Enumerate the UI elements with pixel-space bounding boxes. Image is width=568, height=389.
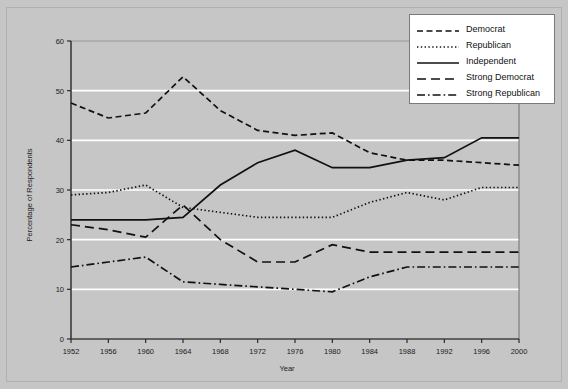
x-tick-label: 1952 [63,347,80,356]
legend-line-swatch [416,71,460,83]
x-tick-label: 2000 [511,347,528,356]
x-tick-label: 1984 [361,347,378,356]
legend-item[interactable]: Democrat [416,21,548,37]
x-tick-label: 1968 [212,347,229,356]
legend-item-label: Independent [466,55,516,67]
x-tick-label: 1964 [175,347,192,356]
x-tick-label: 1960 [137,347,154,356]
x-tick-label: 1992 [436,347,453,356]
x-tick-labels: 1952195619601964196819721976198019841988… [63,347,528,356]
x-tick-label: 1976 [287,347,304,356]
chart-figure: 0102030405060 19521956196019641968197219… [0,0,568,389]
y-tick-label: 50 [56,87,64,96]
y-tick-labels: 0102030405060 [56,37,64,344]
legend-line-swatch [416,55,460,67]
x-tick-label: 1972 [249,347,266,356]
x-tick-label: 1988 [399,347,416,356]
legend-item[interactable]: Strong Republican [416,85,548,101]
legend-line-swatch [416,39,460,51]
legend-item[interactable]: Independent [416,53,548,69]
legend-item[interactable]: Strong Democrat [416,69,548,85]
y-tick-label: 0 [60,335,64,344]
x-axis-title: Year [279,364,295,373]
legend-item-label: Republican [466,39,511,51]
legend-line-swatch [416,87,460,99]
legend-item[interactable]: Republican [416,37,548,53]
x-tick-label: 1996 [473,347,490,356]
x-tick-label: 1956 [100,347,117,356]
y-tick-label: 60 [56,37,64,46]
y-tick-label: 40 [56,136,64,145]
legend-item-label: Democrat [466,23,505,35]
legend-item-label: Strong Republican [466,87,540,99]
legend-line-swatch [416,23,460,35]
y-tick-label: 30 [56,186,64,195]
chart-legend: DemocratRepublicanIndependentStrong Demo… [409,14,555,104]
legend-item-label: Strong Democrat [466,71,534,83]
y-tick-label: 10 [56,285,64,294]
y-axis-title: Percentage of Respondents [25,148,34,241]
y-tick-label: 20 [56,236,64,245]
x-tick-label: 1980 [324,347,341,356]
